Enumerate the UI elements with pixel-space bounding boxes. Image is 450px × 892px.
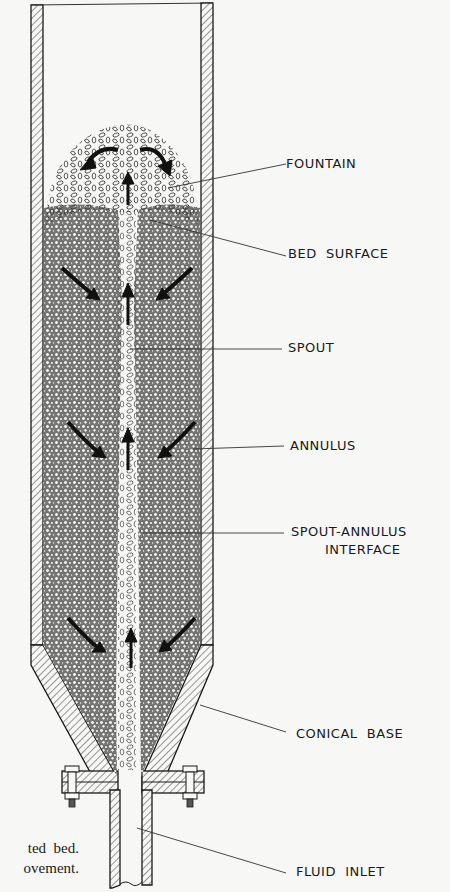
label-fountain: FOUNTAIN xyxy=(286,156,356,172)
label-bed-surface: BED SURFACE xyxy=(288,246,388,262)
label-fluid-inlet: FLUID INLET xyxy=(296,864,385,880)
caption-line-1: ted bed. xyxy=(28,839,79,858)
right-wall xyxy=(201,3,213,645)
label-spout-annulus: SPOUT-ANNULUS xyxy=(291,524,407,540)
label-annulus: ANNULUS xyxy=(290,438,356,454)
label-conical-base: CONICAL BASE xyxy=(296,726,403,742)
inlet-left-wall xyxy=(110,790,120,888)
caption-line-2: ovement. xyxy=(24,859,79,878)
left-wall xyxy=(31,5,43,645)
fountain-particles xyxy=(46,124,198,225)
inlet-right-wall xyxy=(142,790,152,885)
vessel-drawing xyxy=(0,0,450,892)
spouted-bed-diagram: FOUNTAIN BED SURFACE SPOUT ANNULUS SPOUT… xyxy=(0,0,450,892)
label-spout: SPOUT xyxy=(288,340,334,356)
label-interface: INTERFACE xyxy=(325,542,401,558)
